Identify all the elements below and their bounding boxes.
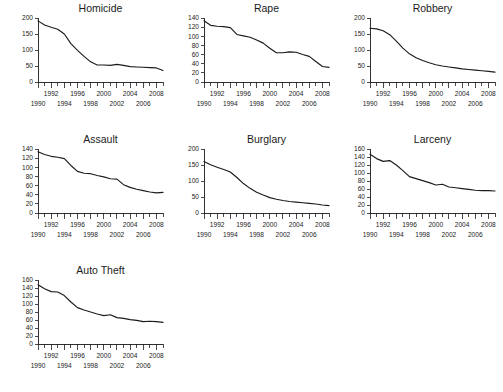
x-tick-label: 2000 [262, 90, 277, 97]
x-tick-label: 1998 [83, 231, 98, 238]
y-tick-label: 140 [354, 153, 365, 160]
y-tick-label: 80 [358, 177, 366, 184]
x-tick-label: 1994 [223, 231, 238, 238]
x-tick-label: 1998 [249, 231, 264, 238]
y-tick-label: 140 [22, 145, 33, 152]
y-tick-label: 40 [26, 324, 34, 331]
x-tick-label: 2008 [149, 352, 164, 359]
y-axis: 020406080100120140160 [354, 145, 370, 216]
x-tick-label: 2002 [442, 100, 457, 107]
x-tick-label: 1992 [44, 352, 59, 359]
y-tick-label: 150 [22, 30, 33, 37]
x-tick-label: 1994 [389, 100, 404, 107]
x-tick-label: 2008 [149, 90, 164, 97]
chart-panel-auto-theft: Auto Theft020406080100120140160199019921… [0, 262, 168, 392]
x-tick-label: 2004 [123, 90, 138, 97]
axis-lines [204, 18, 329, 82]
y-tick-label: 40 [26, 191, 34, 198]
y-tick-label: 80 [192, 42, 200, 49]
small-multiples-figure: Homicide05010015020019901992199419961998… [0, 0, 503, 392]
x-tick-label: 1996 [236, 90, 251, 97]
y-tick-label: 60 [192, 51, 200, 58]
x-tick-label: 1992 [376, 221, 391, 228]
y-tick-label: 100 [22, 46, 33, 53]
y-tick-label: 140 [22, 284, 33, 291]
chart-title: Rape [254, 2, 279, 14]
axis-lines [370, 149, 495, 213]
x-tick-label: 2004 [289, 90, 304, 97]
y-tick-label: 0 [361, 209, 365, 216]
y-tick-label: 100 [22, 300, 33, 307]
x-tick-label: 2000 [262, 221, 277, 228]
y-tick-label: 160 [22, 276, 33, 283]
y-tick-label: 150 [354, 30, 365, 37]
chart-panel-homicide: Homicide05010015020019901992199419961998… [0, 0, 168, 131]
series-line [370, 154, 495, 191]
x-tick-label: 1994 [223, 100, 238, 107]
y-tick-label: 50 [192, 193, 200, 200]
x-tick-label: 2004 [455, 221, 470, 228]
x-tick-label: 2006 [136, 100, 151, 107]
y-tick-label: 50 [26, 62, 34, 69]
y-axis: 050100150200 [354, 14, 370, 85]
x-tick-label: 1994 [57, 231, 72, 238]
y-tick-label: 50 [358, 62, 366, 69]
series-line [204, 161, 329, 205]
y-tick-label: 80 [26, 173, 34, 180]
x-tick-label: 1996 [402, 221, 417, 228]
y-tick-label: 200 [354, 14, 365, 21]
chart-panel-larceny: Larceny020406080100120140160199019921994… [332, 131, 500, 262]
x-tick-label: 2004 [289, 221, 304, 228]
x-axis: 1990199219941996199820002002200420062008 [363, 82, 496, 107]
x-tick-label: 2006 [136, 362, 151, 369]
x-tick-label: 1996 [402, 90, 417, 97]
x-axis: 1990199219941996199820002002200420062008 [31, 82, 164, 107]
y-tick-label: 100 [188, 177, 199, 184]
x-tick-label: 2008 [315, 90, 330, 97]
x-tick-label: 2008 [315, 221, 330, 228]
chart-title: Homicide [79, 2, 123, 14]
y-axis: 020406080100120140 [188, 14, 204, 85]
y-tick-label: 20 [192, 69, 200, 76]
x-tick-label: 2006 [468, 100, 483, 107]
x-tick-label: 1992 [44, 90, 59, 97]
y-tick-label: 0 [29, 209, 33, 216]
y-tick-label: 0 [29, 78, 33, 85]
y-tick-label: 120 [188, 23, 199, 30]
x-tick-label: 2000 [428, 221, 443, 228]
y-tick-label: 120 [354, 161, 365, 168]
chart-panel-assault: Assault020406080100120140199019921994199… [0, 131, 168, 262]
y-tick-label: 20 [26, 332, 34, 339]
y-tick-label: 100 [354, 46, 365, 53]
x-tick-label: 1994 [389, 231, 404, 238]
x-tick-label: 1992 [210, 221, 225, 228]
x-axis: 1990199219941996199820002002200420062008 [197, 82, 330, 107]
chart-panel-robbery: Robbery050100150200199019921994199619982… [332, 0, 500, 131]
chart-title: Burglary [247, 133, 287, 145]
x-tick-label: 2008 [149, 221, 164, 228]
x-tick-label: 2002 [110, 231, 125, 238]
x-tick-label: 1992 [44, 221, 59, 228]
x-tick-label: 1990 [363, 231, 378, 238]
x-tick-label: 1996 [70, 352, 85, 359]
series-line [38, 152, 163, 193]
x-tick-label: 1990 [197, 100, 212, 107]
x-tick-label: 2000 [96, 352, 111, 359]
x-tick-label: 1996 [236, 221, 251, 228]
y-axis: 050100150200 [22, 14, 38, 85]
x-tick-label: 1992 [210, 90, 225, 97]
x-tick-label: 1994 [57, 362, 72, 369]
y-axis: 050100150200 [188, 145, 204, 216]
y-axis: 020406080100120140160 [22, 276, 38, 347]
x-tick-label: 1998 [249, 100, 264, 107]
chart-panel-rape: Rape020406080100120140199019921994199619… [166, 0, 334, 131]
x-tick-label: 1998 [415, 100, 430, 107]
x-tick-label: 2006 [468, 231, 483, 238]
y-tick-label: 150 [188, 161, 199, 168]
x-tick-label: 1990 [363, 100, 378, 107]
x-axis: 1990199219941996199820002002200420062008 [31, 213, 164, 238]
x-tick-label: 2002 [442, 231, 457, 238]
y-axis: 020406080100120140 [22, 145, 38, 216]
y-tick-label: 100 [22, 164, 33, 171]
y-tick-label: 100 [354, 169, 365, 176]
